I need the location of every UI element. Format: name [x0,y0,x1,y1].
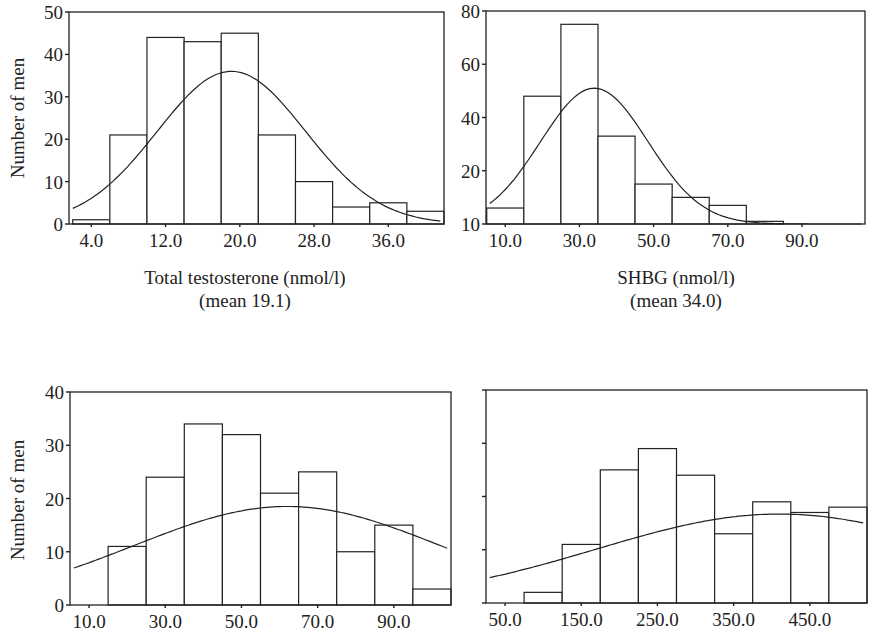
x-tick-label: 90.0 [785,230,818,251]
y-tick-label: 40 [45,382,64,403]
histogram-bar [295,182,332,224]
x-tick-label: 350.0 [712,609,755,630]
x-tick-label: 30.0 [149,611,182,632]
x-tick-label: 30.0 [563,230,596,251]
histogram-bar [598,136,635,224]
x-tick-label: 12.0 [149,230,182,251]
x-tick-label: 10.0 [72,611,105,632]
y-tick-label: 20 [461,161,480,182]
histogram-bar [672,197,709,224]
histogram-bar [184,424,222,605]
x-tick-label: 10.0 [489,230,522,251]
y-tick-label: 30 [45,435,64,456]
x-tick-label: 250.0 [636,609,679,630]
x-tick-label: 450.0 [788,609,831,630]
histogram-bar [524,592,562,603]
histogram-bar [299,472,337,605]
y-tick-label: 10 [44,172,63,193]
histogram-bar [407,211,444,224]
y-tick-label: 20 [45,489,64,510]
histogram-bar [261,493,299,605]
histogram-bar [791,512,829,603]
histogram-bar [222,435,260,605]
bottom-right-histogram: 50.0150.0250.0350.0450.0 [482,390,867,630]
histogram-bar [146,477,184,605]
y-tick-label: 20 [44,129,63,150]
histogram-bar [375,525,413,605]
y-tick-label: 0 [54,214,64,235]
histogram-bar [184,42,221,224]
y-tick-label: 40 [44,44,63,65]
x-axis-title-shbg: SHBG (nmol/l) [617,267,735,289]
histogram-bar [221,33,258,224]
x-tick-label: 20.0 [223,230,256,251]
histogram-bar [635,184,672,224]
x-axis-subtitle-shbg: (mean 34.0) [630,290,722,312]
y-tick-label: 0 [55,595,65,616]
histogram-bar [258,135,295,224]
x-tick-label: 4.0 [79,230,103,251]
histogram-bar [677,475,715,603]
x-tick-label: 50.0 [488,609,521,630]
testosterone-histogram: 010203040504.012.020.028.036.0 [44,2,444,251]
histogram-bar [638,449,676,603]
x-tick-label: 36.0 [372,230,405,251]
y-tick-label: 80 [461,1,480,22]
x-tick-label: 90.0 [377,611,410,632]
histogram-bar [829,507,867,603]
histogram-bar [487,208,524,224]
histogram-bar [108,546,146,605]
y-tick-label: 10 [45,542,64,563]
histogram-bar [333,207,370,224]
x-axis-title-testosterone: Total testosterone (nmol/l) [144,267,345,289]
x-tick-label: 50.0 [637,230,670,251]
y-tick-label: 60 [461,54,480,75]
x-axis-subtitle-testosterone: (mean 19.1) [199,290,291,312]
histogram-bar [600,470,638,603]
bottom-left-histogram: 01020304010.030.050.070.090.0 [45,382,451,632]
histogram-bar [753,502,791,603]
shbg-histogram: 102040608010.030.050.070.090.0 [461,1,865,251]
x-tick-label: 50.0 [225,611,258,632]
y-tick-label: 30 [44,87,63,108]
x-tick-label: 150.0 [560,609,603,630]
y-axis-title-bottom: Number of men [7,439,28,560]
histogram-bar [715,534,753,603]
y-tick-label: 50 [44,2,63,23]
histogram-bar [524,96,561,224]
histogram-bar [337,552,375,605]
histogram-bar [147,37,184,224]
y-tick-label: 40 [461,108,480,129]
histogram-bar [413,589,451,605]
histogram-bar [561,24,598,224]
x-tick-label: 28.0 [297,230,330,251]
y-tick-label: 10 [461,214,480,235]
y-axis-title-top: Number of men [7,57,28,178]
x-tick-label: 70.0 [301,611,334,632]
figure-canvas: 010203040504.012.020.028.036.0 102040608… [0,0,873,636]
x-tick-label: 70.0 [711,230,744,251]
